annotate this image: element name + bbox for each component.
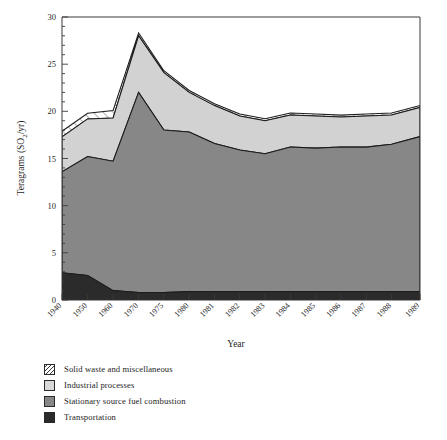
- y-tick-label: 5: [52, 248, 56, 258]
- x-tick-label: 1980: [173, 301, 191, 319]
- legend-swatch-dark-solid: [44, 412, 55, 423]
- x-tick-label: 1987: [350, 301, 368, 319]
- x-tick-label: 1950: [71, 301, 89, 319]
- x-tick-label: 1989: [403, 301, 421, 319]
- legend-item-solid-waste: Solid waste and miscellaneous: [44, 361, 384, 377]
- legend-swatch-medium-gray: [44, 396, 55, 407]
- x-tick-label: 1984: [274, 301, 292, 319]
- x-tick-label: 1960: [97, 301, 115, 319]
- x-tick-label: 1981: [198, 301, 216, 319]
- legend-label: Industrial processes: [64, 380, 134, 390]
- x-axis-title: Year: [227, 339, 245, 349]
- x-tick-label: 1982: [223, 301, 241, 319]
- legend-swatch-hatched-white: [44, 364, 55, 375]
- legend-label: Stationary source fuel combustion: [64, 396, 186, 406]
- x-tick-label: 1986: [324, 301, 342, 319]
- y-tick-label: 20: [48, 106, 57, 116]
- chart-figure: 0 5 10 15 20 25 30 Teragrams (SO2/yr): [0, 0, 447, 440]
- x-tick-label: 1975: [147, 301, 165, 319]
- legend-item-industrial-processes: Industrial processes: [44, 377, 384, 393]
- y-tick-label: 25: [48, 59, 57, 69]
- y-tick-label: 30: [48, 12, 57, 22]
- x-tick-label: 1970: [122, 301, 140, 319]
- y-axis-title: Teragrams (SO2/yr): [16, 121, 29, 196]
- legend-item-transportation: Transportation: [44, 409, 384, 425]
- x-tick-label: 1985: [299, 301, 317, 319]
- legend-label: Transportation: [64, 412, 116, 422]
- y-axis-tick-labels: 0 5 10 15 20 25 30: [48, 12, 57, 305]
- chart-legend: Solid waste and miscellaneous Industrial…: [44, 361, 384, 425]
- x-axis-tick-labels: 1940 1950 1960 1970 1975 1980 1981 1982 …: [45, 301, 421, 319]
- legend-item-stationary-source: Stationary source fuel combustion: [44, 393, 384, 409]
- x-tick-label: 1988: [375, 301, 393, 319]
- y-tick-label: 15: [48, 154, 57, 164]
- y-tick-label: 10: [48, 201, 57, 211]
- legend-swatch-light-gray: [44, 380, 55, 391]
- x-tick-label: 1940: [45, 301, 63, 319]
- x-tick-label: 1983: [249, 301, 267, 319]
- legend-label: Solid waste and miscellaneous: [64, 364, 173, 374]
